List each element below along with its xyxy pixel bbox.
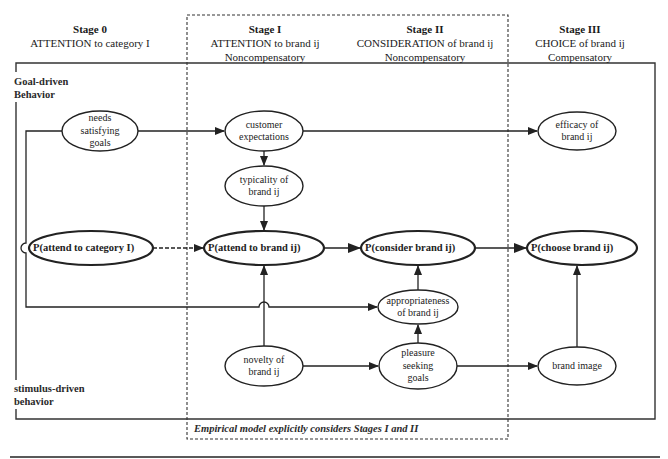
label-customer-expectations: customer expectations — [225, 111, 303, 151]
stage-title: Stage I — [190, 22, 340, 36]
label-p-consider-brand: P(consider brand ij) — [361, 231, 475, 265]
label-typicality: typicality of brand ij — [225, 166, 303, 206]
stage-mode: Noncompensatory — [345, 50, 505, 64]
stage-subtitle: ATTENTION to category I — [20, 36, 160, 50]
stage-title: Stage II — [345, 22, 505, 36]
stage-subtitle: CONSIDERATION of brand ij — [345, 36, 505, 50]
goal-driven-label: Goal-driven Behavior — [14, 74, 68, 102]
stage-title: Stage 0 — [20, 22, 160, 36]
stage-mode: Noncompensatory — [190, 50, 340, 64]
stage-0-header: Stage 0 ATTENTION to category I — [20, 22, 160, 50]
label-pleasure-goals: pleasure seeking goals — [379, 343, 457, 389]
stage-subtitle: ATTENTION to brand ij — [190, 36, 340, 50]
stimulus-driven-label: stimulus-driven behavior — [14, 381, 85, 409]
stage-1-header: Stage I ATTENTION to brand ij Noncompens… — [190, 22, 340, 64]
label-p-attend-brand: P(attend to brand ij) — [204, 231, 324, 265]
label-p-choose-brand: P(choose brand ij) — [527, 231, 637, 265]
label-appropriateness: appropriateness of brand ij — [378, 290, 458, 324]
stage-3-header: Stage III CHOICE of brand ij Compensator… — [515, 22, 645, 64]
diagram-canvas — [0, 0, 668, 459]
stage-mode: Compensatory — [515, 50, 645, 64]
label-p-attend-category: P(attend to category I) — [29, 231, 153, 265]
label-needs-goals: needs satisfying goals — [62, 111, 138, 151]
label-novelty: novelty of brand ij — [225, 346, 303, 386]
stage-2-header: Stage II CONSIDERATION of brand ij Nonco… — [345, 22, 505, 64]
stage-title: Stage III — [515, 22, 645, 36]
empirical-model-note: Empirical model explicitly considers Sta… — [194, 423, 418, 434]
label-brand-image: brand image — [538, 347, 616, 385]
stage-subtitle: CHOICE of brand ij — [515, 36, 645, 50]
label-efficacy: efficacy of brand ij — [538, 112, 616, 150]
edge-goals-loop-to-appropriateness — [21, 131, 377, 307]
